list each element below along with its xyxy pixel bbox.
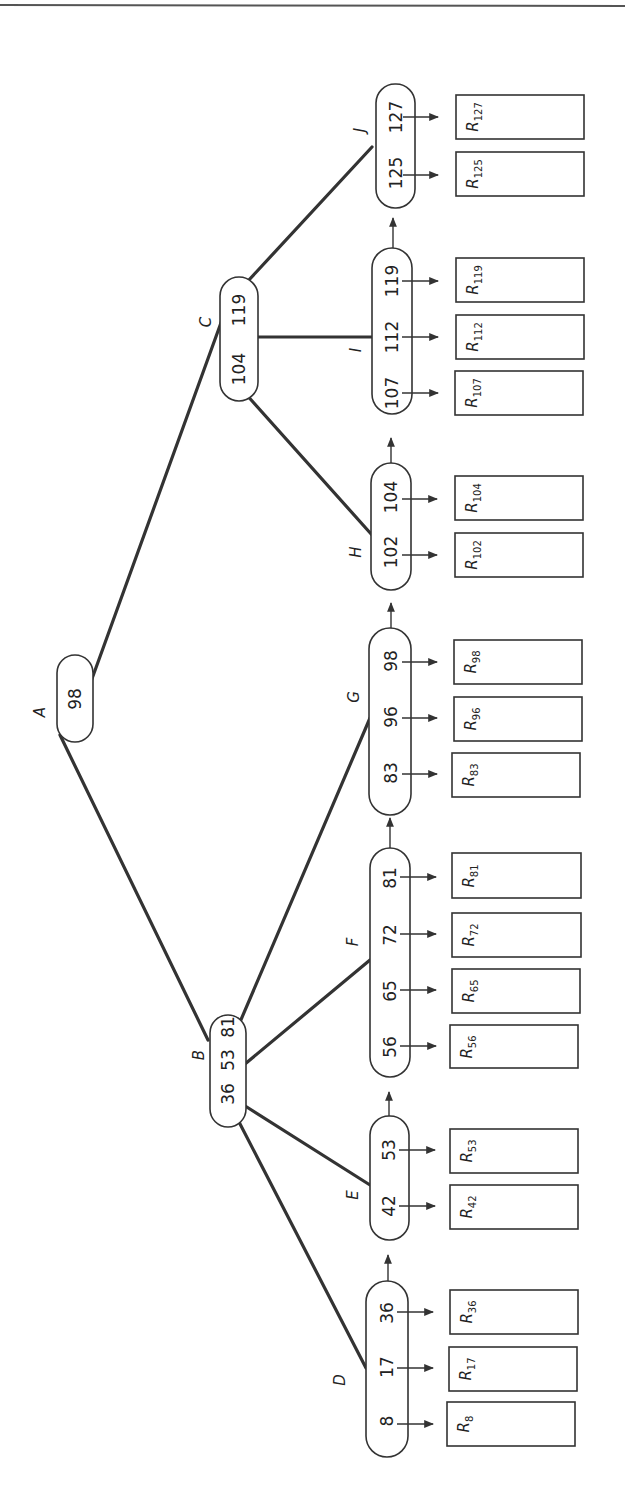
record-r65: R65 <box>452 969 580 1013</box>
node-b-key: 81 <box>218 1016 238 1038</box>
leaf-g-label: G <box>345 691 363 703</box>
leaf-i-label: I <box>347 347 365 352</box>
record-r83: R83 <box>452 753 580 797</box>
record-r127: R127 <box>456 95 584 139</box>
edge-a-b <box>60 735 208 1040</box>
leaf-f-key: 65 <box>380 980 400 1002</box>
record-r104: R104 <box>455 476 583 520</box>
edge-c-h <box>245 393 372 535</box>
record-r42: R42 <box>450 1185 578 1229</box>
leaf-d-key: 17 <box>377 1356 397 1378</box>
leaf-f-key: 72 <box>380 924 400 946</box>
record-r72: R72 <box>452 913 581 957</box>
node-a: A 98 <box>31 655 93 742</box>
record-r53: R53 <box>450 1129 578 1173</box>
record-r125: R125 <box>456 152 584 196</box>
leaf-h: H 102 104 <box>347 463 437 590</box>
edge-a-c <box>89 320 222 687</box>
record-r102: R102 <box>455 533 583 577</box>
leaf-j: J 125 127 <box>351 84 438 208</box>
leaf-f-label: F <box>344 937 362 946</box>
leaf-d: D 8 17 36 <box>331 1281 433 1457</box>
leaf-g-key: 98 <box>381 650 401 672</box>
top-rule <box>0 5 625 6</box>
leaf-i: I 107 112 119 <box>347 248 438 414</box>
edge-c-j <box>248 147 372 281</box>
record-r36: R36 <box>450 1290 578 1334</box>
leaf-d-key: 36 <box>377 1302 397 1324</box>
leaf-d-key: 8 <box>377 1416 397 1427</box>
record-r112: R112 <box>456 315 584 359</box>
leaf-h-key: 102 <box>381 536 401 568</box>
record-r17: R17 <box>449 1347 577 1391</box>
leaf-g-key: 96 <box>381 706 401 728</box>
leaf-e-key: 53 <box>379 1139 399 1161</box>
record-r8: R8 <box>447 1402 575 1446</box>
node-c-key: 119 <box>229 294 249 326</box>
leaf-i-key: 107 <box>382 377 402 409</box>
leaf-h-key: 104 <box>381 481 401 513</box>
node-c-key: 104 <box>229 353 249 385</box>
leaf-j-key: 125 <box>386 157 406 189</box>
record-r81: R81 <box>452 853 581 898</box>
leaf-e-label: E <box>344 1190 362 1200</box>
leaf-i-key: 112 <box>382 321 402 353</box>
node-c-label: C <box>197 316 215 327</box>
leaf-g-key: 83 <box>381 762 401 784</box>
leaf-d-label: D <box>331 1374 349 1386</box>
record-r96: R96 <box>454 697 582 741</box>
leaf-f-key: 56 <box>380 1036 400 1058</box>
tree-edges <box>60 147 372 1368</box>
leaf-f: F 56 65 72 81 <box>344 848 436 1077</box>
record-r107: R107 <box>455 371 583 415</box>
records: R127 R125 R119 R112 R107 R104 R102 R98 R… <box>447 95 584 1446</box>
b-plus-tree-diagram: A 98 B 36 53 81 C 104 119 J 125 127 I 10… <box>0 0 625 1509</box>
node-b: B 36 53 81 <box>190 1015 246 1127</box>
record-r56: R56 <box>450 1025 578 1068</box>
leaf-g: G 83 96 98 <box>345 628 437 815</box>
record-r119: R119 <box>456 258 584 302</box>
leaf-h-label: H <box>347 546 365 557</box>
leaf-f-key: 81 <box>380 867 400 889</box>
edge-b-f <box>245 960 370 1064</box>
node-a-key: 98 <box>65 688 85 710</box>
node-b-key: 36 <box>218 1083 238 1105</box>
node-c: C 104 119 <box>197 277 258 401</box>
leaf-j-label: J <box>351 128 369 135</box>
edge-b-e <box>242 1104 370 1185</box>
node-b-label: B <box>190 1050 208 1060</box>
edge-b-d <box>238 1120 366 1368</box>
record-r98: R98 <box>454 640 582 684</box>
node-a-label: A <box>31 707 49 718</box>
leaf-i-key: 119 <box>382 265 402 297</box>
leaf-e-key: 42 <box>379 1195 399 1217</box>
node-b-key: 53 <box>218 1049 238 1071</box>
